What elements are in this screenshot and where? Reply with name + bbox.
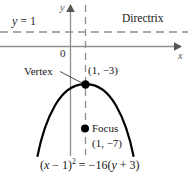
equation-lhs-rest: − 1) [49, 158, 72, 172]
focus-point-marker [81, 125, 89, 133]
y-axis-label: y [60, 3, 65, 14]
directrix-label: Directrix [122, 13, 164, 25]
directrix-equation-label: y = 1 [12, 15, 36, 27]
parabola-equation-label: (x − 1)2 = −16(y + 3) [40, 159, 139, 171]
equation-middle: = −16( [76, 158, 112, 172]
equation-rhs-rest: + 3) [117, 158, 140, 172]
directrix-equation-value: = 1 [17, 14, 36, 28]
vertex-label: Vertex [24, 66, 53, 77]
vertex-leader-line [60, 72, 84, 85]
vertex-point-marker [81, 80, 89, 88]
y-axis-arrow [66, 4, 75, 12]
origin-label: 0 [60, 48, 66, 59]
x-axis-label: x [178, 51, 183, 62]
focus-label: Focus [92, 123, 118, 134]
focus-coordinates-label: (1, −7) [92, 138, 122, 149]
parabola-figure: Directrix y = 1 y x 0 Vertex (1, −3) Foc… [0, 0, 188, 177]
vertex-coordinates-label: (1, −3) [88, 65, 118, 76]
